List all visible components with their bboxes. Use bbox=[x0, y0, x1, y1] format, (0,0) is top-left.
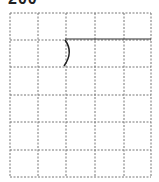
grid-diagram bbox=[0, 0, 159, 182]
curve-arc bbox=[64, 40, 69, 66]
dashed-grid bbox=[10, 13, 151, 177]
